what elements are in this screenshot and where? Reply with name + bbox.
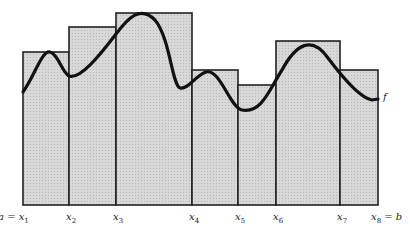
curve-label: f bbox=[383, 91, 387, 102]
rectangles bbox=[23, 13, 378, 205]
rectangle-7 bbox=[340, 70, 378, 205]
rectangle-4 bbox=[192, 70, 238, 205]
partition-label-x7: x7 bbox=[337, 211, 347, 225]
partition-label-x6: x6 bbox=[273, 211, 283, 225]
partition-label-x2: x2 bbox=[66, 211, 76, 225]
partition-label-x8: x8 = b bbox=[371, 211, 402, 225]
partition-label-x3: x3 bbox=[113, 211, 123, 225]
rectangle-5 bbox=[238, 85, 276, 205]
rectangle-2 bbox=[69, 27, 116, 205]
partition-label-x1: a = x1 bbox=[0, 211, 29, 225]
partition-label-x5: x5 bbox=[235, 211, 245, 225]
rectangle-3 bbox=[116, 13, 192, 205]
rectangle-1 bbox=[23, 52, 69, 205]
partition-label-x4: x4 bbox=[189, 211, 199, 225]
riemann-diagram bbox=[0, 0, 410, 239]
